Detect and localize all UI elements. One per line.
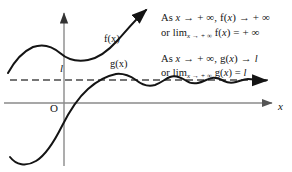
annotation-g-line2-pre: or lim [161, 67, 187, 78]
annotation-g-line1-arrow: → + ∞, g( [180, 52, 229, 64]
annotation-g-line1-limit: l [255, 53, 258, 64]
annotation-g-line2-limit: l [244, 67, 247, 78]
annotation-f-line2: or limx → + ∞ f(x) = + ∞ [161, 25, 260, 43]
annotation-f-line1-pre: As [161, 12, 176, 23]
annotation-f-line1-arrow: → + ∞, f( [180, 11, 227, 23]
annotation-f-line1-post: ) → + ∞ [232, 11, 270, 23]
annotation-f-line2-sub-rest: → + ∞ [190, 32, 212, 40]
x-axis-label: x [278, 100, 283, 112]
annotation-g-line1: As x → + ∞, g(x) → l [161, 51, 258, 66]
annotation-g-line2-post: g( [212, 67, 224, 78]
curve-g [10, 74, 266, 165]
annotation-f-line2-end: ) = + ∞ [227, 26, 260, 38]
limit-diagram-figure: f(x) g(x) l O x As x → + ∞, f(x) → + ∞ o… [0, 0, 292, 172]
curve-g-label: g(x) [110, 58, 128, 69]
asymptote-label: l [60, 62, 63, 74]
annotation-f-line2-post: f( [212, 27, 222, 38]
annotation-g-line2-end: ) = [228, 67, 243, 78]
annotation-g-line2-sub-rest: → + ∞ [190, 72, 212, 80]
annotation-g-line1-post: ) → [234, 52, 255, 64]
curve-f-label: f(x) [104, 33, 120, 44]
annotation-g-line2: or limx → + ∞ g(x) = l [161, 66, 247, 83]
origin-label: O [50, 102, 58, 114]
annotation-g-line1-pre: As [161, 53, 176, 64]
annotation-f-line1: As x → + ∞, f(x) → + ∞ [161, 10, 270, 25]
annotation-f-line2-pre: or lim [161, 27, 187, 38]
